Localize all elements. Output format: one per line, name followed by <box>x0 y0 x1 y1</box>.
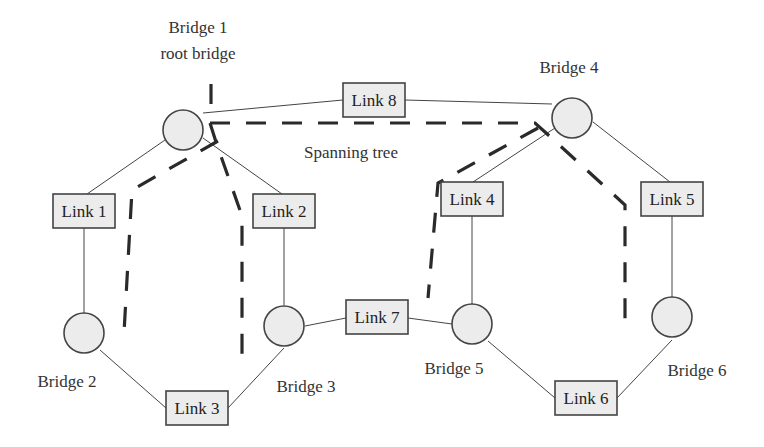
link-8[interactable]: Link 8 <box>343 83 405 117</box>
spanning-tree-diagram: Link 1 Link 2 Link 3 Link 4 Link 5 Link … <box>0 0 764 447</box>
link-1-label: Link 1 <box>62 202 107 221</box>
link-2-label: Link 2 <box>262 202 307 221</box>
bridge-4-label: Bridge 4 <box>539 58 599 77</box>
link-1[interactable]: Link 1 <box>53 194 115 228</box>
edge-b2-l3 <box>100 350 166 408</box>
link-7[interactable]: Link 7 <box>346 300 408 334</box>
edge-b1-l8 <box>203 100 343 113</box>
link-5-label: Link 5 <box>650 190 695 209</box>
link-3-label: Link 3 <box>175 399 220 418</box>
link-7-label: Link 7 <box>355 308 400 327</box>
bridge-6-label: Bridge 6 <box>667 361 726 380</box>
bridge-1-node[interactable] <box>163 110 203 150</box>
bridge-labels: Bridge 1 root bridge Bridge 2 Bridge 3 B… <box>37 18 726 396</box>
edge-b4-l5 <box>593 122 670 182</box>
link-8-label: Link 8 <box>352 91 397 110</box>
edge-b3-l7 <box>305 318 346 326</box>
link-6[interactable]: Link 6 <box>555 381 617 415</box>
edge-b5-l6 <box>488 341 555 398</box>
spanning-tree-label: Spanning tree <box>304 143 398 162</box>
edge-l7-b5 <box>408 318 452 324</box>
link-5[interactable]: Link 5 <box>641 182 703 216</box>
link-6-label: Link 6 <box>564 389 609 408</box>
edge-l8-b4 <box>405 100 552 104</box>
edge-l6-b6 <box>617 340 672 398</box>
bridge-3-node[interactable] <box>264 306 304 346</box>
bridge-6-node[interactable] <box>652 297 692 337</box>
tree-left-outer <box>124 141 218 333</box>
tree-left-inner <box>210 123 242 356</box>
links: Link 1 Link 2 Link 3 Link 4 Link 5 Link … <box>53 83 703 425</box>
link-4-label: Link 4 <box>450 190 495 209</box>
bridge-3-label: Bridge 3 <box>276 377 335 396</box>
edge-b4-l4 <box>473 128 555 182</box>
link-2[interactable]: Link 2 <box>253 194 315 228</box>
bridge-2-label: Bridge 2 <box>37 372 96 391</box>
link-3[interactable]: Link 3 <box>166 391 228 425</box>
bridge-4-node[interactable] <box>552 98 592 138</box>
link-4[interactable]: Link 4 <box>441 182 503 216</box>
bridge-1-sublabel: root bridge <box>160 44 235 63</box>
bridge-5-node[interactable] <box>452 304 492 344</box>
bridge-2-node[interactable] <box>64 313 104 353</box>
edge-b1-l1 <box>87 140 165 194</box>
bridge-1-label: Bridge 1 <box>168 18 227 37</box>
edge-b1-l2 <box>203 138 282 194</box>
bridge-5-label: Bridge 5 <box>424 359 483 378</box>
